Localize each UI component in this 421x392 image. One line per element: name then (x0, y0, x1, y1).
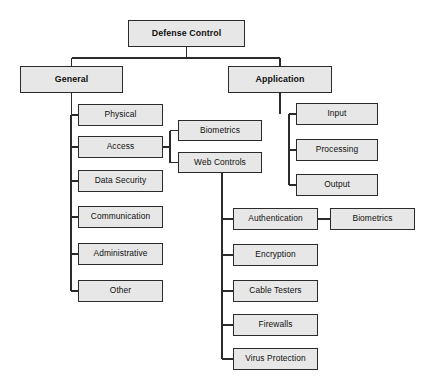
node-label: Administrative (92, 249, 150, 258)
node-authentication[interactable]: Authentication (233, 208, 318, 230)
node-label: Cable Testers (247, 286, 303, 295)
node-firewalls[interactable]: Firewalls (233, 314, 318, 336)
node-label: Biometrics (198, 126, 242, 135)
connector-layer (0, 0, 421, 392)
cropped-header-artifact (22, 1, 142, 6)
node-application[interactable]: Application (228, 66, 332, 93)
node-physical[interactable]: Physical (78, 104, 163, 126)
node-label: Output (322, 180, 352, 189)
node-label: Web Controls (192, 158, 248, 167)
node-label: Firewalls (257, 320, 295, 329)
node-biometrics-auth[interactable]: Biometrics (330, 208, 415, 230)
node-cable-testers[interactable]: Cable Testers (233, 280, 318, 302)
node-label: General (53, 75, 90, 85)
node-data-security[interactable]: Data Security (78, 170, 163, 192)
node-label: Application (254, 75, 307, 85)
defense-control-diagram: Defense ControlGeneralApplicationPhysica… (0, 0, 421, 392)
node-label: Encryption (253, 250, 298, 259)
node-biometrics-access[interactable]: Biometrics (178, 120, 262, 141)
node-label: Physical (103, 110, 139, 119)
node-label: Data Security (93, 176, 149, 185)
node-defense-control[interactable]: Defense Control (128, 20, 245, 47)
node-label: Other (108, 286, 133, 295)
node-label: Authentication (246, 214, 304, 223)
node-label: Biometrics (350, 214, 394, 223)
node-label: Input (325, 109, 348, 118)
node-label: Access (105, 142, 137, 151)
node-output[interactable]: Output (296, 174, 378, 196)
node-processing[interactable]: Processing (296, 139, 378, 161)
node-other[interactable]: Other (78, 280, 163, 302)
node-encryption[interactable]: Encryption (233, 244, 318, 266)
node-communication[interactable]: Communication (78, 206, 163, 228)
node-general[interactable]: General (20, 66, 123, 93)
node-web-controls[interactable]: Web Controls (178, 152, 262, 173)
node-administrative[interactable]: Administrative (78, 243, 163, 265)
node-access[interactable]: Access (78, 136, 163, 158)
node-label: Defense Control (150, 29, 223, 39)
node-label: Virus Protection (243, 354, 308, 363)
node-label: Communication (89, 212, 152, 221)
node-input[interactable]: Input (296, 103, 378, 125)
node-virus-protection[interactable]: Virus Protection (233, 348, 318, 370)
node-label: Processing (314, 145, 360, 154)
